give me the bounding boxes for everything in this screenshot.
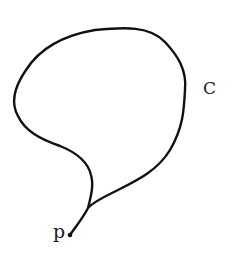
point-p-marker [68,233,73,238]
point-label-p: p [53,222,65,241]
curve-diagram [0,0,233,256]
closed-curve-c [14,28,185,235]
curve-label-c: C [203,80,216,97]
